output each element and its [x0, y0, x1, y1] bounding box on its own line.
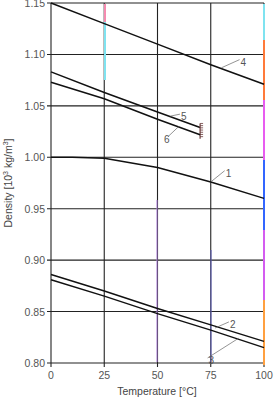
series-line-5	[51, 72, 200, 128]
y-axis-title: Density [103 kg/m3]	[2, 138, 14, 227]
curve-label-4: 4	[241, 57, 247, 68]
curve-label-1: 1	[226, 168, 232, 179]
y-tick-label: 1.05	[25, 100, 46, 112]
y-tick-label: 1.10	[25, 48, 46, 60]
density-temperature-chart: 123456 0.800.850.900.951.001.051.101.15 …	[0, 0, 274, 403]
x-tick-label: 0	[48, 369, 54, 381]
x-tick-label: 100	[255, 369, 273, 381]
x-tick-label: 50	[152, 369, 164, 381]
y-tick-label: 0.90	[25, 254, 46, 266]
curve-label-5: 5	[181, 111, 187, 122]
curve-label-6: 6	[164, 134, 170, 145]
y-tick-label: 1.00	[25, 151, 46, 163]
series-line-6	[51, 82, 200, 135]
y-tick-label: 0.85	[25, 306, 46, 318]
y-tick-label: 1.15	[25, 0, 46, 9]
y-tick-label: 0.80	[25, 357, 46, 369]
x-axis-title: Temperature [°C]	[117, 385, 197, 397]
x-tick-label: 25	[98, 369, 110, 381]
x-tick-label: 75	[205, 369, 217, 381]
curve-label-3: 3	[209, 355, 215, 366]
curve-label-2: 2	[230, 319, 236, 330]
x-axis-ticks: 0255075100	[48, 369, 273, 381]
y-tick-label: 0.95	[25, 203, 46, 215]
y-axis-ticks: 0.800.850.900.951.001.051.101.15	[25, 0, 46, 369]
